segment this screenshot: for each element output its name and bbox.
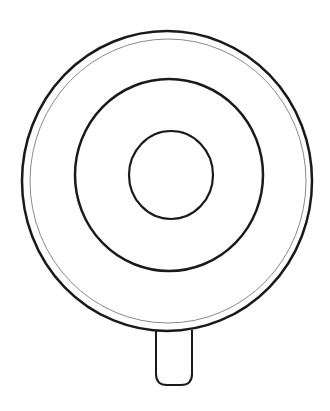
- stick: [156, 330, 192, 385]
- lollipop-drawing: [0, 0, 330, 411]
- outer-circle: [22, 31, 312, 331]
